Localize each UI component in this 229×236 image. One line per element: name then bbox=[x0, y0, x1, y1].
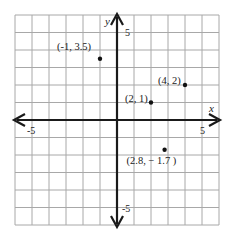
point-marker bbox=[98, 57, 102, 61]
point-marker bbox=[183, 83, 187, 87]
axes bbox=[14, 14, 220, 227]
data-point: (-1, 3.5) bbox=[57, 41, 102, 61]
y-tick-label-neg5: -5 bbox=[122, 203, 130, 214]
x-axis-label: x bbox=[208, 102, 214, 114]
coordinate-plane: x y -5 5 5 -5 (-1, 3.5)(2, 1)(4, 2)(2.8,… bbox=[0, 0, 229, 236]
x-tick-label-5: 5 bbox=[200, 125, 205, 136]
y-tick-label-5: 5 bbox=[125, 27, 130, 38]
point-marker bbox=[162, 148, 166, 152]
point-label: (2, 1) bbox=[125, 93, 148, 105]
data-point: (2, 1) bbox=[125, 93, 153, 105]
point-label: (-1, 3.5) bbox=[57, 41, 92, 53]
y-axis-label: y bbox=[104, 15, 110, 27]
point-marker bbox=[149, 100, 153, 104]
point-label: (4, 2) bbox=[158, 75, 181, 87]
point-label: (2.8, − 1.7 ) bbox=[127, 155, 177, 167]
x-tick-label-neg5: -5 bbox=[27, 125, 35, 136]
